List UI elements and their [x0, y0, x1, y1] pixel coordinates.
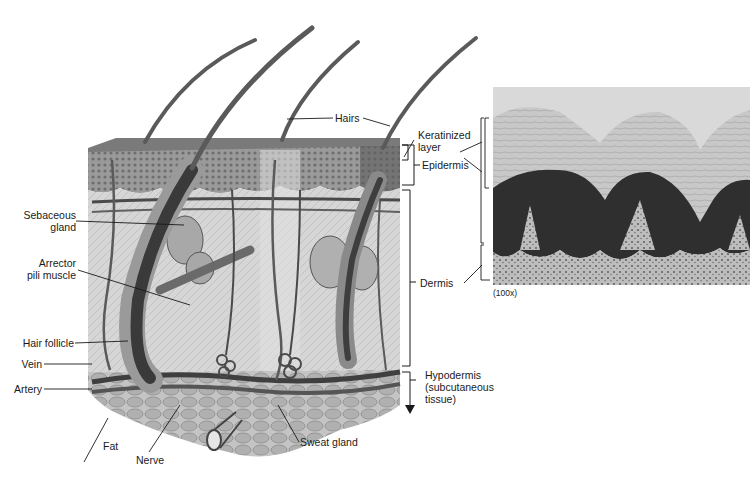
block-notch-face [260, 150, 300, 380]
label-line: Artery [2, 383, 42, 395]
label-artery: Artery [2, 383, 42, 395]
label-dermis: Dermis [420, 277, 453, 289]
micrograph-dermis-bracket [481, 245, 490, 280]
label-line: layer [418, 141, 471, 153]
hypodermis-bracket [402, 372, 410, 402]
label-line: Keratinized [418, 129, 471, 141]
epidermis-layer [88, 146, 400, 193]
label-line: pili muscle [6, 269, 76, 281]
skin-illustration [0, 0, 750, 483]
skin-diagram: Sebaceous gland Arrector pili muscle Hai… [0, 0, 750, 483]
label-fat: Fat [103, 440, 118, 452]
down-arrow-icon [405, 405, 415, 414]
label-line: Hairs [335, 112, 360, 124]
skin-block [88, 138, 400, 456]
cut-vessel [207, 430, 221, 450]
label-line: tissue) [425, 393, 494, 405]
label-line: Fat [103, 440, 118, 452]
label-line: Sweat gland [300, 436, 358, 448]
micrograph-magnification: (100x) [493, 287, 517, 299]
micrograph-epidermis-bracket [481, 118, 484, 243]
dermis-bracket [402, 190, 410, 366]
layer-brackets [402, 145, 420, 402]
label-line: Hair follicle [2, 337, 74, 349]
label-sweat-gland: Sweat gland [300, 436, 358, 448]
label-line: Sebaceous [6, 209, 76, 221]
label-epidermis: Epidermis [422, 159, 469, 171]
label-hypodermis: Hypodermis (subcutaneous tissue) [425, 369, 494, 405]
label-line: Hypodermis [425, 369, 494, 381]
label-hair-follicle: Hair follicle [2, 337, 74, 349]
label-line: gland [6, 221, 76, 233]
label-line: Vein [2, 358, 42, 370]
label-line: Epidermis [422, 159, 469, 171]
label-keratinized-layer: Keratinized layer [418, 129, 471, 153]
micrograph [481, 87, 750, 285]
label-line: (subcutaneous [425, 381, 494, 393]
label-line: Arrector [6, 257, 76, 269]
label-sebaceous-gland: Sebaceous gland [6, 209, 76, 233]
label-nerve: Nerve [136, 454, 164, 466]
label-hairs: Hairs [335, 112, 360, 124]
label-line: Nerve [136, 454, 164, 466]
label-line: Dermis [420, 277, 453, 289]
label-arrector-pili-muscle: Arrector pili muscle [6, 257, 76, 281]
label-vein: Vein [2, 358, 42, 370]
micrograph-keratinized-bracket [485, 118, 489, 188]
